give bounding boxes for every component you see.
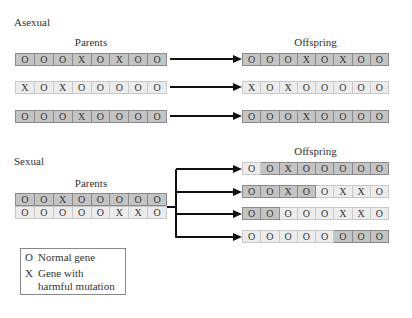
normal-gene-cell: O	[280, 207, 298, 220]
normal-gene-cell: O	[110, 110, 129, 123]
arrow-head-icon	[233, 233, 242, 241]
normal-gene-cell: O	[73, 81, 92, 94]
normal-gene-cell: O	[92, 206, 111, 219]
mutated-gene-cell: X	[129, 206, 148, 219]
normal-gene-cell: O	[298, 207, 316, 220]
normal-gene-cell: O	[261, 162, 279, 175]
sexual-offspring-row: OOOOOOOO	[242, 230, 389, 243]
mutated-gene-cell: X	[334, 53, 352, 66]
normal-gene-cell: O	[35, 193, 54, 206]
sexual-arrow-line	[176, 213, 234, 215]
asexual-arrow-line	[170, 115, 234, 117]
normal-gene-cell: O	[148, 193, 167, 206]
mutated-gene-cell: X	[15, 81, 35, 94]
normal-gene-cell: O	[73, 193, 92, 206]
normal-gene-cell: O	[129, 110, 148, 123]
sexual-arrow-line	[176, 191, 234, 193]
normal-gene-cell: O	[334, 110, 352, 123]
mutated-gene-cell: X	[298, 110, 316, 123]
normal-gene-cell: O	[110, 193, 129, 206]
normal-gene-cell: O	[35, 206, 54, 219]
normal-gene-cell: O	[371, 53, 389, 66]
mutated-gene-cell: X	[73, 53, 92, 66]
sexual-parent-row: OOXOOOOO	[15, 193, 167, 206]
asexual-parent-row: OOOXOXOO	[15, 53, 167, 66]
normal-gene-cell: O	[261, 207, 279, 220]
asexual-title: Asexual	[14, 16, 50, 28]
normal-gene-cell: O	[371, 110, 389, 123]
sexual-arrow-line	[176, 236, 234, 238]
normal-gene-cell: O	[129, 193, 148, 206]
normal-gene-cell: O	[242, 110, 261, 123]
normal-gene-cell: O	[316, 110, 334, 123]
arrow-head-icon	[233, 112, 242, 120]
mutated-gene-cell: X	[353, 185, 371, 198]
normal-gene-cell: O	[353, 110, 371, 123]
sexual-parents-label: Parents	[15, 177, 167, 189]
asexual-arrow-line	[170, 58, 234, 60]
normal-gene-cell: O	[148, 206, 167, 219]
sexual-offspring-row: OOXOOOOO	[242, 162, 389, 175]
normal-gene-cell: O	[298, 162, 316, 175]
normal-gene-cell: O	[353, 162, 371, 175]
mutated-gene-cell: X	[298, 53, 316, 66]
asexual-offspring-label: Offspring	[242, 36, 389, 48]
normal-gene-cell: O	[298, 81, 316, 94]
normal-gene-cell: O	[148, 81, 167, 94]
normal-gene-cell: O	[54, 206, 73, 219]
mutated-gene-cell: X	[54, 193, 73, 206]
normal-gene-cell: O	[371, 230, 389, 243]
normal-gene-cell: O	[148, 53, 167, 66]
normal-gene-cell: O	[148, 110, 167, 123]
mutated-gene-cell: X	[334, 207, 352, 220]
normal-gene-cell: O	[334, 81, 352, 94]
sexual-arrow-line	[176, 168, 234, 170]
normal-gene-cell: O	[261, 185, 279, 198]
mutated-gene-cell: X	[110, 206, 129, 219]
normal-gene-cell: O	[316, 81, 334, 94]
normal-gene-cell: O	[35, 53, 54, 66]
normal-gene-cell: O	[242, 207, 261, 220]
normal-gene-cell: O	[15, 110, 35, 123]
normal-gene-cell: O	[334, 230, 352, 243]
normal-gene-cell: O	[261, 53, 279, 66]
mutated-gene-cell: X	[334, 185, 352, 198]
normal-gene-cell: O	[15, 206, 35, 219]
normal-gene-cell: O	[261, 110, 279, 123]
normal-gene-cell: O	[371, 207, 389, 220]
normal-gene-cell: O	[54, 110, 73, 123]
normal-gene-cell: O	[371, 185, 389, 198]
normal-gene-cell: O	[15, 53, 35, 66]
bracket-stem	[167, 206, 175, 208]
arrow-head-icon	[233, 165, 242, 173]
normal-gene-cell: O	[371, 81, 389, 94]
normal-gene-cell: O	[316, 162, 334, 175]
asexual-parents-label: Parents	[15, 36, 167, 48]
normal-gene-cell: O	[35, 81, 54, 94]
normal-gene-cell: O	[316, 207, 334, 220]
normal-gene-cell: O	[242, 53, 261, 66]
normal-gene-cell: O	[35, 110, 54, 123]
mutated-gene-cell: X	[242, 81, 261, 94]
normal-gene-symbol: O	[25, 251, 36, 264]
normal-gene-cell: O	[371, 162, 389, 175]
normal-gene-cell: O	[92, 193, 111, 206]
normal-gene-cell: O	[15, 193, 35, 206]
arrow-head-icon	[233, 188, 242, 196]
mutated-gene-cell: X	[280, 185, 298, 198]
normal-gene-cell: O	[73, 206, 92, 219]
normal-gene-cell: O	[316, 230, 334, 243]
mutated-gene-cell: X	[353, 207, 371, 220]
asexual-parent-row: XOXOOOOO	[15, 81, 167, 94]
asexual-offspring-row: XOXOOOOO	[242, 81, 389, 94]
normal-gene-cell: O	[316, 53, 334, 66]
normal-gene-cell: O	[280, 53, 298, 66]
normal-gene-cell: O	[129, 53, 148, 66]
bracket-spine	[175, 169, 177, 238]
normal-gene-label: Normal gene	[36, 251, 95, 264]
arrow-head-icon	[233, 55, 242, 63]
asexual-parent-row: OOOXOOOO	[15, 110, 167, 123]
sexual-offspring-row: OOOOOXXO	[242, 207, 389, 220]
sexual-offspring-label: Offspring	[242, 145, 389, 157]
normal-gene-cell: O	[242, 162, 261, 175]
